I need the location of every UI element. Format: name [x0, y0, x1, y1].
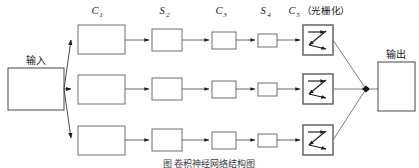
merge-node-icon [362, 85, 370, 92]
column-header-s2-subscript: 2 [166, 11, 170, 19]
output-merge-connectors [333, 40, 378, 140]
branch-line-row-3 [64, 89, 71, 138]
column-header-c5-subscript: 5 [296, 11, 300, 19]
input-node-label: 输入 [26, 54, 46, 66]
row-2-stage-c5[interactable] [303, 74, 333, 104]
column-header-c3-subscript: 3 [222, 11, 227, 19]
row-1-stage-c3[interactable] [212, 32, 236, 49]
row-1-stage-c5[interactable] [303, 25, 333, 55]
row-3-stage-s4[interactable] [258, 134, 277, 147]
row-1-stage-c1[interactable] [78, 25, 125, 54]
pipeline-row-2 [78, 74, 333, 104]
column-header-s4-subscript: 4 [267, 11, 271, 19]
figure-caption: 图 卷积神经网络结构图 [163, 158, 256, 168]
row-3-stage-c5[interactable] [303, 125, 333, 155]
column-header-s4: S 4 [260, 5, 271, 19]
column-header-c1: C 1 [91, 5, 102, 19]
column-headers: C 1 S 2 C 3 S 4 C 5 （ 光栅化 ） [91, 5, 350, 19]
column-header-c5: C 5 （ 光栅化 ） [288, 5, 350, 19]
pipeline-row-1 [78, 25, 333, 55]
figure-root: C 1 S 2 C 3 S 4 C 5 （ 光栅化 ） [0, 0, 419, 168]
row-3-stage-c3[interactable] [212, 132, 236, 149]
merge-line-row-3 [333, 89, 366, 140]
column-header-s4-base: S [260, 5, 266, 16]
input-node-box[interactable] [8, 68, 64, 110]
row-2-stage-s4[interactable] [258, 83, 277, 96]
row-3-stage-c1[interactable] [78, 126, 125, 155]
column-header-c1-subscript: 1 [99, 11, 103, 19]
row-2-stage-s2[interactable] [152, 78, 182, 100]
merge-line-row-1 [333, 40, 366, 89]
column-header-c5-paren-close: ） [340, 5, 350, 16]
row-1-stage-s2[interactable] [152, 29, 182, 51]
column-header-s2: S 2 [159, 5, 170, 19]
input-branch-connectors [64, 40, 71, 138]
input-node[interactable]: 输入 [8, 54, 64, 110]
row-2-stage-c1[interactable] [78, 75, 125, 104]
row-2-raster-box[interactable] [303, 74, 333, 104]
output-node[interactable]: 输出 [378, 48, 415, 111]
row-3-raster-box[interactable] [303, 125, 333, 155]
column-header-c5-annotation: 光栅化 [311, 5, 341, 16]
output-node-box[interactable] [378, 62, 415, 111]
branch-line-row-1 [64, 40, 71, 89]
pipeline-row-3 [78, 125, 333, 155]
column-header-c3: C 3 [215, 5, 227, 19]
row-3-stage-s2[interactable] [152, 129, 182, 151]
output-node-label: 输出 [386, 48, 406, 60]
cnn-architecture-diagram: C 1 S 2 C 3 S 4 C 5 （ 光栅化 ） [0, 0, 419, 168]
row-1-stage-s4[interactable] [258, 34, 277, 47]
column-header-s2-base: S [159, 5, 165, 16]
row-2-stage-c3[interactable] [212, 81, 236, 98]
row-1-raster-box[interactable] [303, 25, 333, 55]
